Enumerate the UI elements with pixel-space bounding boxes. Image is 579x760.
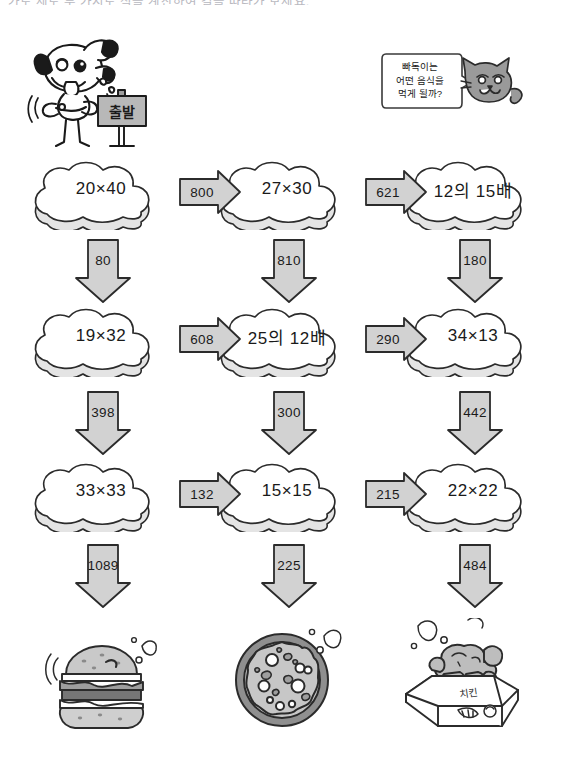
top-instruction-text: 가로 세로 두 가지로 식을 계산하여 길을 따라가 보세요.: [8, 0, 478, 5]
horizontal-arrow: 132: [178, 471, 242, 517]
vertical-arrow: 1089: [72, 543, 134, 609]
expression-cloud[interactable]: 19×32: [25, 307, 177, 377]
horizontal-arrow: 800: [178, 169, 242, 215]
speech-line-2: 어떤 음식을: [396, 75, 444, 88]
start-sign-label: 출발: [98, 96, 146, 126]
start-sign: 출발: [92, 88, 154, 150]
worksheet-page: 가로 세로 두 가지로 식을 계산하여 길을 따라가 보세요.: [0, 0, 579, 760]
vertical-arrow: 484: [444, 543, 506, 609]
expression-cloud[interactable]: 33×33: [25, 462, 177, 532]
vertical-arrow: 225: [258, 543, 320, 609]
vertical-arrow: 442: [444, 390, 506, 456]
speech-bubble: 빠독이는 어떤 음식을 먹게 될까?: [380, 52, 466, 110]
horizontal-arrow: 215: [364, 471, 428, 517]
vertical-arrow: 180: [444, 238, 506, 304]
horizontal-arrow: 608: [178, 316, 242, 362]
expression-cloud[interactable]: 20×40: [25, 160, 177, 230]
cat-character-icon: [455, 55, 527, 115]
vertical-arrow: 398: [72, 390, 134, 456]
fried-chicken-box-icon: 치킨: [398, 618, 528, 734]
vertical-arrow: 80: [72, 238, 134, 304]
vertical-arrow: 300: [258, 390, 320, 456]
vertical-arrow: 810: [258, 238, 320, 304]
speech-line-3: 먹게 될까?: [398, 88, 442, 101]
pizza-icon: [228, 624, 346, 734]
speech-line-1: 빠독이는: [402, 61, 438, 74]
horizontal-arrow: 621: [364, 169, 428, 215]
horizontal-arrow: 290: [364, 316, 428, 362]
hamburger-icon: [42, 630, 160, 734]
